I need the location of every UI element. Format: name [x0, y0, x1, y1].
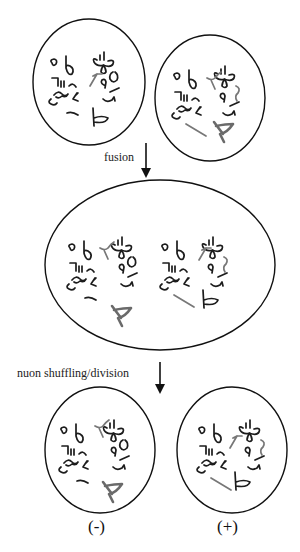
plus-sign-label: (+) [217, 518, 238, 535]
diagram-canvas [0, 0, 300, 552]
daughter-cell-minus [45, 387, 155, 513]
division-arrow [155, 362, 165, 394]
fusion-label: fusion [104, 151, 134, 163]
parent-cell-left [33, 19, 145, 145]
parent-cell-right [155, 35, 265, 161]
fused-cell [45, 180, 275, 350]
fusion-arrow [141, 143, 151, 178]
division-label: nuon shuffling/division [17, 367, 129, 379]
minus-sign-label: (-) [88, 518, 105, 535]
daughter-cell-plus [177, 387, 287, 513]
